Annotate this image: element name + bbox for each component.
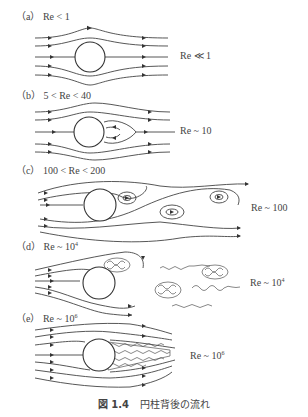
cylinder (75, 42, 105, 72)
cylinder (74, 117, 104, 147)
caption-text: 円柱背後の流れ (140, 399, 210, 410)
panel-b-diagram (35, 103, 175, 160)
panel-d-diagram (35, 252, 240, 317)
cylinder (83, 339, 115, 371)
panel-a-diagram (35, 28, 168, 85)
panel-e-diagram (35, 323, 175, 387)
figure-caption: 図 1.4 円柱背後の流れ (0, 396, 308, 411)
flow-diagram (0, 0, 308, 417)
cylinder (83, 267, 115, 299)
cylinder (84, 189, 116, 221)
panel-c-diagram (38, 182, 249, 242)
caption-number: 図 1.4 (98, 399, 129, 410)
